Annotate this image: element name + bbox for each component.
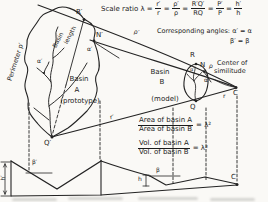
dimension-label-h: h xyxy=(138,176,142,182)
equals-sign: = xyxy=(164,5,170,13)
model-profile xyxy=(101,161,237,186)
angle-label-beta-prime: β′ xyxy=(32,159,37,165)
point-label-N-prime: N′ xyxy=(96,32,103,39)
angle-label-beta: β xyxy=(156,167,160,173)
angle-label-alpha-prime-model: α′ xyxy=(190,67,194,72)
basin-b-word3: (model) xyxy=(151,96,178,103)
center-of-similitude-line2: similitude xyxy=(214,68,246,75)
basin-b-word2: B xyxy=(160,79,165,86)
angle-label-alpha: α xyxy=(204,77,208,83)
area-ratio-result: = λ² xyxy=(196,121,211,129)
fraction-r: r′r xyxy=(155,1,161,16)
basin-a-word1: Basin xyxy=(69,76,88,83)
point-label-C-base: C xyxy=(231,174,236,181)
caption-smudge xyxy=(210,198,255,201)
point-label-R: R xyxy=(190,52,195,59)
angle-label-alpha-prime-junction: α′ xyxy=(37,58,42,64)
volume-ratio-formula: Vol. of basin A Vol. of basin B = λ³ xyxy=(138,140,208,156)
point-label-R-prime: R′ xyxy=(76,9,82,16)
point-label-Q: Q xyxy=(190,104,196,111)
caption-smudge xyxy=(138,197,198,200)
segment-label-r: r xyxy=(223,93,225,99)
point-label-C-center: C xyxy=(233,90,238,97)
fraction-RQ: R′Q′RQ xyxy=(191,1,206,16)
basin-b-streams xyxy=(187,67,202,101)
angle-label-alpha-prime-edge: α′ xyxy=(87,46,92,52)
equals-sign: = xyxy=(182,5,188,13)
scale-ratio-label: Scale ratio λ = xyxy=(101,5,153,13)
equals-sign: = xyxy=(226,5,232,13)
segment-label-r-prime: r′ xyxy=(110,114,115,120)
center-of-similitude-line1: Center of xyxy=(217,60,247,67)
corresponding-angles-line1: Corresponding angles: α′ = α xyxy=(157,28,252,35)
basin-a-word2: A xyxy=(75,87,80,94)
basin-b-word1: Basin xyxy=(150,69,169,76)
point-label-Q-prime: Q′ xyxy=(44,140,51,147)
equals-sign: = xyxy=(208,5,214,13)
caption-smudge xyxy=(12,198,57,201)
similitude-diagram: Scale ratio λ = r′r = ρ′ρ = R′Q′RQ = P′P… xyxy=(0,0,268,202)
basin-a-outline xyxy=(24,7,99,137)
basin-length-line-dashed xyxy=(52,85,66,136)
scale-ratio-formula: Scale ratio λ = r′r = ρ′ρ = R′Q′RQ = P′P… xyxy=(101,1,242,16)
corresponding-angles-line2: β′ = β xyxy=(230,38,249,45)
dimension-label-h-prime: h′ xyxy=(0,175,6,180)
volume-ratio-fraction: Vol. of basin A Vol. of basin B xyxy=(138,140,190,156)
basin-a-word3: (prototype) xyxy=(60,98,100,105)
volume-ratio-result: = λ³ xyxy=(193,144,208,152)
point-label-N: N xyxy=(200,62,205,69)
area-ratio-formula: Area of basin A Area of basin B = λ² xyxy=(138,117,211,133)
caption-smudge xyxy=(68,197,123,200)
fraction-h: h′h xyxy=(234,1,242,16)
fraction-P: P′P xyxy=(216,1,223,16)
area-ratio-fraction: Area of basin A Area of basin B xyxy=(138,117,193,133)
fraction-rho: ρ′ρ xyxy=(172,1,180,16)
